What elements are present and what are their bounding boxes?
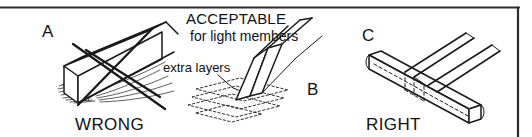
panel-b-extra-layers-callout: extra layers <box>163 60 231 75</box>
figure-root: A WRONG ACCEPTABLE for light members ext… <box>0 0 532 137</box>
panel-b-heading: ACCEPTABLE <box>186 10 286 27</box>
panel-b: ACCEPTABLE for light members extra layer… <box>163 10 322 122</box>
panel-c-verdict-label: RIGHT <box>366 115 421 134</box>
panel-a-verdict-label: WRONG <box>75 115 144 134</box>
panel-c-letter: C <box>362 26 375 45</box>
technical-figure: A WRONG ACCEPTABLE for light members ext… <box>0 0 532 137</box>
panel-a: A WRONG <box>42 22 178 134</box>
panel-a-letter: A <box>42 22 54 41</box>
panel-c: C <box>362 26 500 134</box>
panel-b-letter: B <box>307 80 319 99</box>
